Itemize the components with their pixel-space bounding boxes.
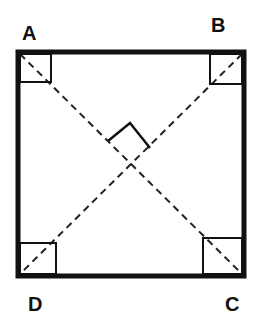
vertex-label-a: A: [22, 22, 36, 44]
vertex-label-b: B: [211, 14, 225, 36]
right-angle-marker-center: [108, 123, 150, 148]
vertex-label-c: C: [225, 293, 239, 315]
vertex-label-d: D: [28, 293, 42, 315]
square-diagram: A B C D: [0, 0, 261, 326]
